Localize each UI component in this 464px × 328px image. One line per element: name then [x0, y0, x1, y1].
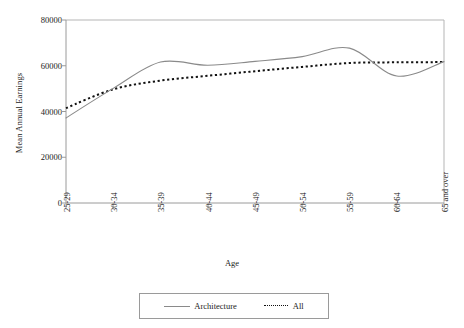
legend-line-dotted-icon	[263, 302, 289, 310]
series-line-all	[66, 62, 444, 108]
legend-label-all: All	[293, 301, 304, 311]
x-axis-title: Age	[0, 258, 464, 268]
x-tick-label-40-44: 40-44	[204, 192, 214, 212]
chart-legend: Architecture All	[139, 293, 329, 319]
x-tick-label-50-54: 50-54	[298, 192, 308, 212]
x-tick-label-45-49: 45-49	[251, 192, 261, 212]
x-tick-label-55-59: 55-59	[345, 192, 355, 212]
series-line-architecture	[66, 47, 444, 117]
x-tick-label-30-34: 30-34	[109, 192, 119, 212]
x-tick-label-60-64: 60-64	[392, 192, 402, 212]
plot-area	[0, 0, 464, 328]
x-tick-label-35-39: 35-39	[156, 192, 166, 212]
legend-item-architecture: Architecture	[164, 301, 236, 311]
x-tick-label-65-and-over: 65 and over	[440, 172, 450, 212]
x-tick-label-25-29: 25-29	[62, 192, 72, 212]
legend-line-solid-icon	[164, 302, 190, 310]
legend-label-architecture: Architecture	[194, 301, 236, 311]
chart-figure: Mean Annual Earnings 80000 60000 40000 2…	[0, 0, 464, 328]
y-axis-ticks	[61, 20, 66, 203]
legend-item-all: All	[263, 301, 304, 311]
